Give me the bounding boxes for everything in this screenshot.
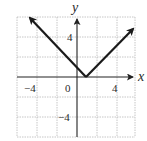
- absolute-value-curve: [30, 18, 133, 77]
- left-arm: [30, 18, 86, 77]
- x-axis-label: x: [137, 69, 145, 84]
- origin-tick: 0: [65, 82, 71, 94]
- graph: x y −4 0 4 4 −4: [0, 0, 147, 141]
- right-arm: [86, 29, 133, 77]
- x-tick-neg4: −4: [24, 82, 36, 94]
- y-tick-neg4: −4: [58, 111, 70, 123]
- y-axis-label: y: [70, 0, 79, 15]
- x-tick-4: 4: [112, 82, 118, 94]
- y-tick-4: 4: [67, 31, 73, 43]
